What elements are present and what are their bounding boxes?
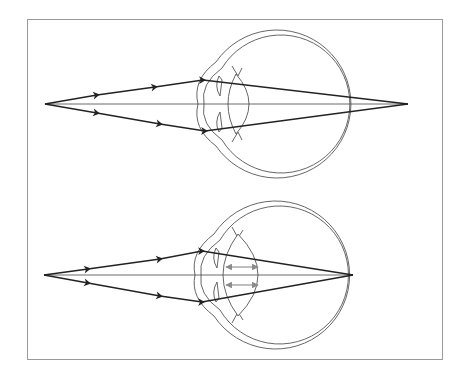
- top-eye-panel: [45, 30, 408, 178]
- bottom-eye-panel: [44, 201, 353, 349]
- light-rays: [45, 80, 408, 131]
- eye-optics-diagram: [0, 0, 470, 380]
- light-rays: [44, 251, 353, 302]
